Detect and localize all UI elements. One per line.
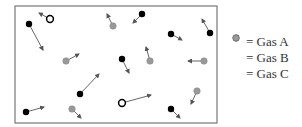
gas-a-particle xyxy=(77,91,83,97)
gas-a-particle xyxy=(207,30,213,36)
gas-a-particle xyxy=(139,11,145,17)
legend-label-gas-c: = Gas C xyxy=(246,66,289,82)
gas-a-particle xyxy=(168,106,174,112)
velocity-arrow-icon xyxy=(29,24,43,50)
gas-b-particle xyxy=(119,100,126,107)
gas-a-particle xyxy=(168,31,174,37)
container-box xyxy=(15,6,217,123)
legend-item-gas-c: = Gas C xyxy=(232,66,289,82)
gas-c-particle xyxy=(63,58,69,64)
legend-label-gas-a: = Gas A xyxy=(246,34,289,50)
gas-c-particle xyxy=(194,88,200,94)
legend-item-gas-a: = Gas A xyxy=(232,34,289,50)
velocity-arrow-icon xyxy=(80,74,99,94)
gas-c-particle xyxy=(69,106,75,112)
legend-label-gas-b: = Gas B xyxy=(246,50,289,66)
gas-a-particle xyxy=(119,56,125,62)
particles xyxy=(23,11,213,115)
gas-c-particle xyxy=(110,23,116,29)
gas-a-particle xyxy=(26,21,32,27)
legend: = Gas A = Gas B = Gas C xyxy=(232,34,289,82)
legend-item-gas-b: = Gas B xyxy=(232,50,289,66)
gas-c-particle xyxy=(147,58,153,64)
gas-b-particle xyxy=(47,16,54,23)
velocity-arrow-icon xyxy=(122,95,151,103)
gas-c-particle xyxy=(201,58,207,64)
gas-a-particle xyxy=(23,109,29,115)
